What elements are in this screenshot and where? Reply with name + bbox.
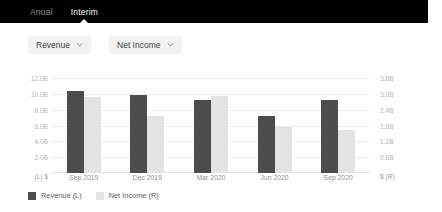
x-axis-label: Sep 2019 — [52, 174, 116, 188]
legend-item-net-income[interactable]: Net Income (R) — [96, 191, 159, 200]
right-axis-ticks: 3.6B3.0B2.4B1.8B1.2B0.6B — [380, 72, 412, 173]
bar-net-income[interactable] — [147, 116, 164, 173]
right-axis-tick: 1.2B — [380, 138, 412, 145]
plot-area — [52, 72, 370, 173]
left-axis-tick: 10.0B — [16, 91, 48, 98]
bar-net-income[interactable] — [84, 97, 101, 173]
right-axis-tick: 3.6B — [380, 75, 412, 82]
bar-revenue[interactable] — [130, 95, 147, 173]
left-axis-tick: 12.0B — [16, 75, 48, 82]
revenue-dropdown[interactable]: Revenue — [28, 36, 91, 54]
bar-net-income[interactable] — [275, 127, 292, 173]
financial-chart-widget: Anual Interim Revenue Net Income 12.0B10… — [0, 0, 442, 212]
x-axis-label: Sep 2020 — [306, 174, 370, 188]
right-axis-tick: 3.0B — [380, 91, 412, 98]
net-income-dropdown-label: Net Income — [117, 40, 160, 50]
x-axis-label: Jun 2020 — [243, 174, 307, 188]
legend-swatch-revenue — [28, 192, 36, 200]
bar-group[interactable] — [321, 72, 355, 173]
tab-interim[interactable]: Interim — [70, 7, 99, 17]
tab-anual[interactable]: Anual — [29, 7, 54, 17]
series-selectors: Revenue Net Income — [0, 33, 442, 57]
chevron-down-icon — [167, 41, 174, 48]
bar-group[interactable] — [67, 72, 101, 173]
x-axis-label: Mar 2020 — [179, 174, 243, 188]
bar-group[interactable] — [194, 72, 228, 173]
x-axis-labels: Sep 2019Dec 2019Mar 2020Jun 2020Sep 2020 — [52, 174, 370, 188]
bar-revenue[interactable] — [67, 91, 84, 173]
legend-label-net-income: Net Income (R) — [109, 191, 159, 200]
tab-anual-label: Anual — [30, 7, 53, 17]
chart-legend: Revenue (L) Net Income (R) — [28, 191, 159, 200]
left-axis-tick: 6.0B — [16, 122, 48, 129]
left-axis-tick: 4.0B — [16, 138, 48, 145]
left-axis-tick: 8.0B — [16, 106, 48, 113]
x-axis-label: Dec 2019 — [116, 174, 180, 188]
left-axis-tick: 2.0B — [16, 154, 48, 161]
bar-net-income[interactable] — [211, 96, 228, 173]
bar-group[interactable] — [258, 72, 292, 173]
bar-revenue[interactable] — [258, 116, 275, 173]
bar-chart: 12.0B10.0B8.0B6.0B4.0B2.0B 3.6B3.0B2.4B1… — [0, 62, 442, 182]
active-tab-pointer-icon — [79, 19, 89, 24]
right-axis-tick: 2.4B — [380, 106, 412, 113]
left-axis-ticks: 12.0B10.0B8.0B6.0B4.0B2.0B — [16, 72, 48, 173]
right-axis-unit-label: $ (R) — [380, 173, 414, 180]
header-bar: Anual Interim — [0, 0, 428, 23]
bar-net-income[interactable] — [338, 130, 355, 173]
net-income-dropdown[interactable]: Net Income — [109, 36, 181, 54]
legend-swatch-net-income — [96, 192, 104, 200]
left-axis-unit-label: (L) $ — [16, 173, 48, 180]
tab-interim-label: Interim — [71, 7, 98, 17]
bar-revenue[interactable] — [194, 100, 211, 173]
legend-label-revenue: Revenue (L) — [41, 191, 82, 200]
bar-group[interactable] — [130, 72, 164, 173]
legend-item-revenue[interactable]: Revenue (L) — [28, 191, 82, 200]
bar-groups — [52, 72, 370, 173]
right-axis-tick: 1.8B — [380, 122, 412, 129]
right-axis-tick: 0.6B — [380, 154, 412, 161]
chevron-down-icon — [76, 41, 83, 48]
revenue-dropdown-label: Revenue — [36, 40, 70, 50]
tab-list: Anual Interim — [0, 0, 428, 23]
bar-revenue[interactable] — [321, 100, 338, 173]
